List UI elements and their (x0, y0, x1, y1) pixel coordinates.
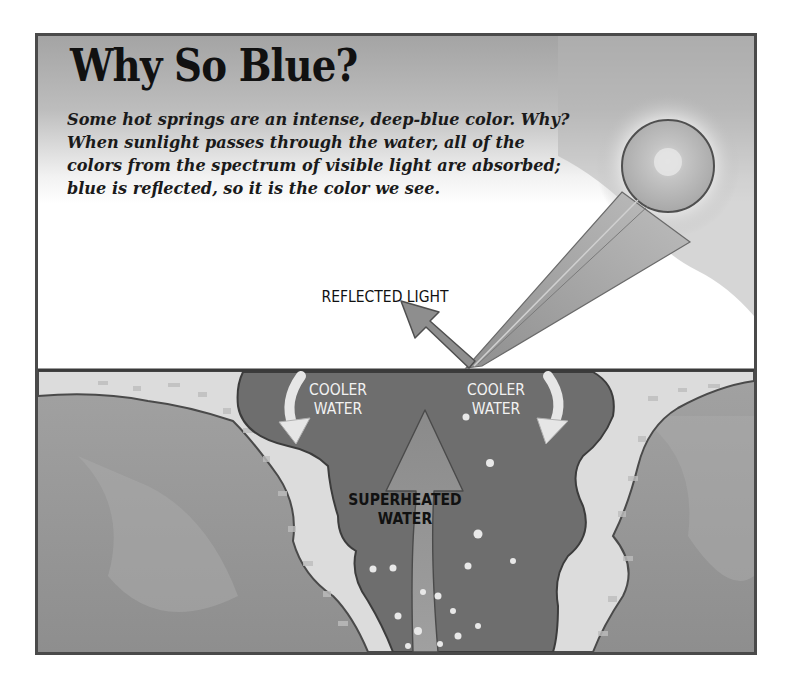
reflected-light-label: REFLECTED LIGHT (309, 288, 462, 307)
cooler-water-label-left: COOLER WATER (302, 381, 374, 419)
description-line: colors from the spectrum of visible ligh… (67, 154, 582, 177)
cooler-water-label-right: COOLER WATER (460, 381, 532, 419)
description-line: Some hot springs are an intense, deep-bl… (67, 108, 582, 131)
figure-description: Some hot springs are an intense, deep-bl… (67, 108, 582, 200)
description-line: When sunlight passes through the water, … (67, 131, 582, 154)
description-line: blue is reflected, so it is the color we… (67, 177, 582, 200)
superheated-water-label: SUPERHEATED WATER (338, 491, 473, 529)
illustration-frame: Why So Blue? Some hot springs are an int… (35, 33, 757, 655)
figure-title: Why So Blue? (70, 40, 357, 91)
